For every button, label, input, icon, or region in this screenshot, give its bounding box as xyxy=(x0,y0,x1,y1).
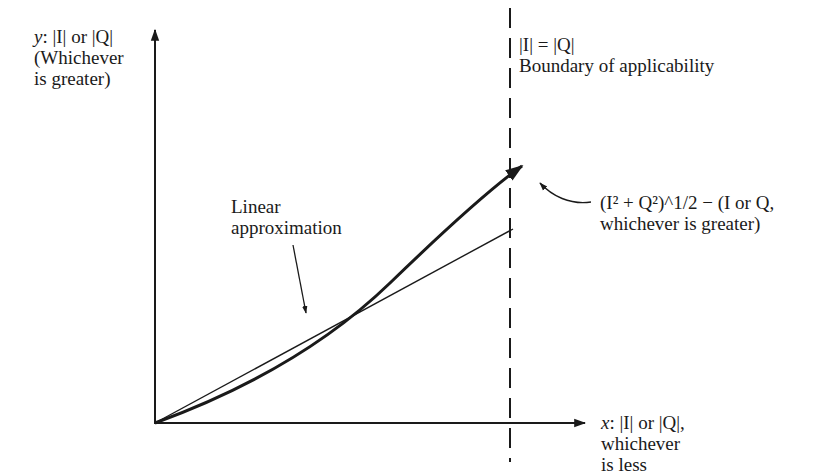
curve-label-line2: whichever is greater) xyxy=(600,213,774,234)
x-label-line2: whichever xyxy=(601,433,685,454)
exact-curve-label: (I² + Q²)^1/2 − (I or Q, whichever is gr… xyxy=(600,192,774,234)
curve-label-line1: (I² + Q²)^1/2 − (I or Q, xyxy=(600,192,774,213)
linear-approximation-line xyxy=(155,229,513,423)
linear-approximation-label: Linear approximation xyxy=(231,196,342,238)
linear-label-line2: approximation xyxy=(231,217,342,238)
boundary-label: |I| = |Q| Boundary of applicability xyxy=(519,34,714,76)
x-axis-label: x: |I| or |Q|, whichever is less xyxy=(601,412,685,473)
boundary-label-line2: Boundary of applicability xyxy=(519,55,714,76)
y-label-line3: is greater) xyxy=(34,68,124,89)
linear-pointer-arrow xyxy=(293,245,306,313)
y-axis-label: y: |I| or |Q| (Whichever is greater) xyxy=(34,26,124,89)
x-label-line3: is less xyxy=(601,454,685,473)
y-label-line1: : |I| or |Q| xyxy=(42,26,113,47)
linear-label-line1: Linear xyxy=(231,196,342,217)
curve-pointer-arrow xyxy=(540,183,591,203)
x-label-line1: : |I| or |Q|, xyxy=(609,412,684,433)
y-label-line2: (Whichever xyxy=(34,47,124,68)
boundary-label-line1: |I| = |Q| xyxy=(519,34,714,55)
